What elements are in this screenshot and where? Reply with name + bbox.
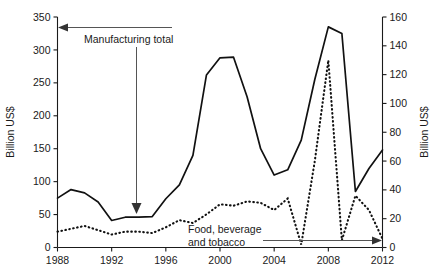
x-tick-label: 2000 bbox=[208, 254, 232, 266]
y-axis-title: Billion US$ bbox=[4, 106, 16, 158]
y-tick-label: 50 bbox=[39, 208, 51, 220]
y2-tick-label: 100 bbox=[390, 97, 408, 109]
y2-tick-label: 60 bbox=[390, 155, 402, 167]
y2-tick-label: 160 bbox=[390, 11, 408, 23]
y-tick-label: 350 bbox=[33, 11, 51, 23]
chart-figure: 050100150200250300350 020406080100120140… bbox=[0, 0, 439, 278]
x-tick-label: 2004 bbox=[262, 254, 286, 266]
y2-tick-label: 40 bbox=[390, 183, 402, 195]
y2-axis-title: Billion US$ bbox=[418, 106, 430, 158]
y2-tick-label: 140 bbox=[390, 39, 408, 51]
annotation-manufacturing-label: Manufacturing total bbox=[84, 33, 173, 45]
y2-tick-label: 80 bbox=[390, 126, 402, 138]
y-tick-label: 250 bbox=[33, 76, 51, 88]
y2-tick-label: 0 bbox=[390, 241, 396, 253]
x-tick-label: 2008 bbox=[317, 254, 341, 266]
annotation-manufacturing-total: Manufacturing total bbox=[58, 24, 173, 215]
y-tick-label: 300 bbox=[33, 44, 51, 56]
y-tick-label: 200 bbox=[33, 109, 51, 121]
y-tick-label: 150 bbox=[33, 142, 51, 154]
y2-tick-label: 120 bbox=[390, 68, 408, 80]
axis-right: 020406080100120140160 bbox=[383, 11, 408, 254]
y2-tick-label: 20 bbox=[390, 212, 402, 224]
y-tick-label: 0 bbox=[45, 241, 51, 253]
annotation-food-label-line1: Food, beverage bbox=[188, 223, 262, 235]
axis-bottom: 1988199219962000200420082012 bbox=[46, 248, 395, 266]
x-tick-label: 2012 bbox=[371, 254, 395, 266]
series-food-beverage-tobacco bbox=[58, 60, 383, 244]
chart-canvas: 050100150200250300350 020406080100120140… bbox=[0, 0, 439, 278]
x-tick-label: 1988 bbox=[46, 254, 70, 266]
annotation-food-label-line2: and tobacco bbox=[188, 236, 245, 248]
y-tick-label: 100 bbox=[33, 175, 51, 187]
x-tick-label: 1992 bbox=[100, 254, 124, 266]
series-manufacturing-total bbox=[58, 27, 383, 221]
x-tick-label: 1996 bbox=[154, 254, 178, 266]
annotation-food-beverage-tobacco: Food, beverage and tobacco bbox=[188, 223, 382, 248]
axis-left: 050100150200250300350 bbox=[33, 11, 58, 254]
